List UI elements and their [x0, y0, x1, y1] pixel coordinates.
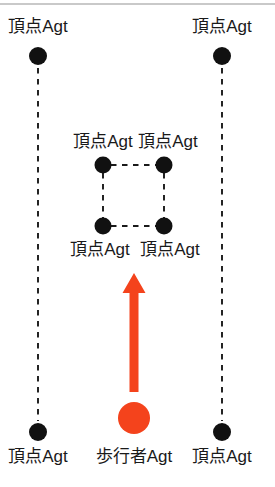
vertex-agent-label-inner-bottom-left: 頂点Agt [70, 240, 130, 259]
vertex-agent-node-inner-top-right[interactable] [156, 157, 173, 174]
pedestrian-agent-node[interactable] [118, 402, 150, 434]
vertex-agent-label-inner-bottom-right: 頂点Agt [140, 240, 200, 259]
agent-network-figure: 頂点Agt頂点Agt頂点Agt頂点Agt頂点Agt頂点Agt頂点Agt頂点Agt… [0, 0, 275, 487]
vertex-agent-label-outer-bottom-left: 頂点Agt [8, 447, 68, 466]
vertex-agent-label-inner-top-right: 頂点Agt [138, 132, 198, 151]
vertex-agent-label-outer-top-left: 頂点Agt [8, 17, 68, 36]
pedestrian-direction-arrow [123, 273, 146, 392]
vertex-agent-node-outer-bottom-left[interactable] [29, 423, 47, 441]
pedestrian-agent-label: 歩行者Agt [96, 447, 173, 466]
vertex-agent-node-outer-top-left[interactable] [29, 47, 47, 65]
vertex-agent-node-outer-top-right[interactable] [213, 47, 231, 65]
vertex-agent-node-inner-bottom-left[interactable] [95, 218, 112, 235]
vertex-agent-node-inner-bottom-right[interactable] [156, 218, 173, 235]
vertex-agent-label-inner-top-left: 頂点Agt [73, 132, 133, 151]
vertex-agent-label-outer-top-right: 頂点Agt [192, 17, 252, 36]
vertex-agent-label-outer-bottom-right: 頂点Agt [192, 447, 252, 466]
figure-canvas: 頂点Agt頂点Agt頂点Agt頂点Agt頂点Agt頂点Agt頂点Agt頂点Agt… [0, 0, 275, 487]
vertex-agent-node-outer-bottom-right[interactable] [213, 423, 231, 441]
vertex-agent-node-inner-top-left[interactable] [95, 157, 112, 174]
